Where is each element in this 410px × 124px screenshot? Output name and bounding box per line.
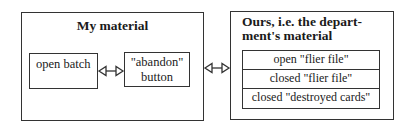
list-item: open "flier file" xyxy=(243,51,379,70)
department-material-list: open "flier file" closed "flier file" cl… xyxy=(242,50,380,109)
department-material-title: Ours, i.e. the depart- ment's material xyxy=(242,15,392,43)
open-batch-label: open batch xyxy=(36,58,91,71)
bidirectional-arrow-icon xyxy=(98,64,124,78)
title-line-2: ment's material xyxy=(242,29,392,43)
abandon-label-line1: "abandon" xyxy=(125,56,189,69)
list-item: closed "destroyed cards" xyxy=(243,89,379,108)
title-line-1: Ours, i.e. the depart- xyxy=(242,15,392,29)
abandon-button-box: "abandon" button xyxy=(124,52,190,87)
list-item: closed "flier file" xyxy=(243,70,379,89)
bidirectional-arrow-icon xyxy=(204,61,230,75)
abandon-label-line2: button xyxy=(125,71,189,84)
open-batch-box: open batch xyxy=(29,53,98,89)
my-material-title: My material xyxy=(22,19,203,33)
